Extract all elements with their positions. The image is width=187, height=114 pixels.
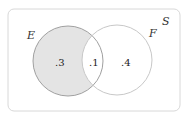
region-f-only-value: .4	[121, 57, 131, 68]
region-intersection-value: .1	[89, 57, 99, 68]
set-f-label: F	[148, 27, 157, 40]
universe-label: S	[162, 15, 170, 28]
region-e-only-value: .3	[55, 57, 65, 68]
venn-diagram: S E F .3 .1 .4	[0, 0, 187, 114]
set-e-label: E	[26, 29, 35, 42]
